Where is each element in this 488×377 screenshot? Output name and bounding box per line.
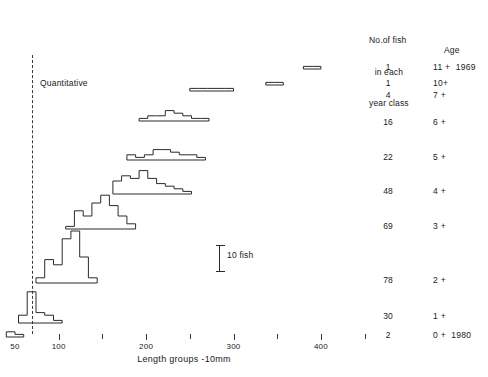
x-axis-title: Length groups -10mm <box>0 354 488 364</box>
age-value-7: 2 + <box>433 275 446 285</box>
axis-tick-major-100 <box>59 334 60 340</box>
axis-label-400: 400 <box>314 342 328 351</box>
x-axis-title-text: Length groups -10mm <box>137 354 231 364</box>
histogram-age-5-plus <box>127 150 206 160</box>
axis-tick-minor-150 <box>102 334 103 339</box>
count-heading-line-1: No.of fish <box>369 35 409 46</box>
scale-bar-icon <box>219 245 220 271</box>
histogram-age-10-plus <box>266 82 284 85</box>
quantitative-divider-line <box>32 55 33 334</box>
age-value-8: 1 + <box>433 311 446 321</box>
histogram-age-1-plus <box>19 292 63 323</box>
count-value-0: 1 <box>365 62 411 72</box>
histogram-age-2-plus <box>36 231 97 283</box>
axis-label-100: 100 <box>52 342 66 351</box>
histogram-age-7-plus <box>190 88 234 91</box>
axis-tick-minor-450 <box>365 334 366 339</box>
histogram-age-11-plus <box>303 66 321 69</box>
age-column-heading: Age <box>444 45 460 56</box>
count-value-3: 16 <box>365 117 411 127</box>
age-value-5: 4 + <box>433 186 446 196</box>
histogram-age-0-plus <box>6 332 23 337</box>
histogram-age-3-plus <box>66 195 136 229</box>
count-value-2: 4 <box>365 90 411 100</box>
count-value-1: 1 <box>365 78 411 88</box>
axis-label-300: 300 <box>227 342 241 351</box>
axis-tick-minor-350 <box>277 334 278 339</box>
length-frequency-figure: No.of fish in each year class Age Quanti… <box>0 0 488 377</box>
age-value-9: 0 + 1980 <box>433 330 471 340</box>
age-value-2: 7 + <box>433 90 446 100</box>
axis-tick-minor-250 <box>190 334 191 339</box>
count-value-9: 2 <box>365 330 411 340</box>
count-value-8: 30 <box>365 311 411 321</box>
count-value-4: 22 <box>365 152 411 162</box>
count-value-6: 69 <box>365 221 411 231</box>
count-value-7: 78 <box>365 275 411 285</box>
histogram-series-group <box>0 0 488 377</box>
age-value-4: 5 + <box>433 152 446 162</box>
age-value-3: 6 + <box>433 117 446 127</box>
count-value-5: 48 <box>365 186 411 196</box>
axis-tick-major-300 <box>234 334 235 340</box>
axis-label-50: 50 <box>10 342 19 351</box>
scale-bar-label: 10 fish <box>227 250 253 260</box>
histogram-age-4-plus <box>113 171 192 194</box>
age-value-1: 10+ <box>433 78 448 88</box>
age-value-0: 11 + 1969 <box>433 62 476 72</box>
axis-tick-major-200 <box>146 334 147 340</box>
histogram-age-6-plus <box>139 111 209 121</box>
axis-tick-major-400 <box>321 334 322 340</box>
age-value-6: 3 + <box>433 221 446 231</box>
axis-label-200: 200 <box>139 342 153 351</box>
quantitative-label: Quantitative <box>40 78 88 88</box>
